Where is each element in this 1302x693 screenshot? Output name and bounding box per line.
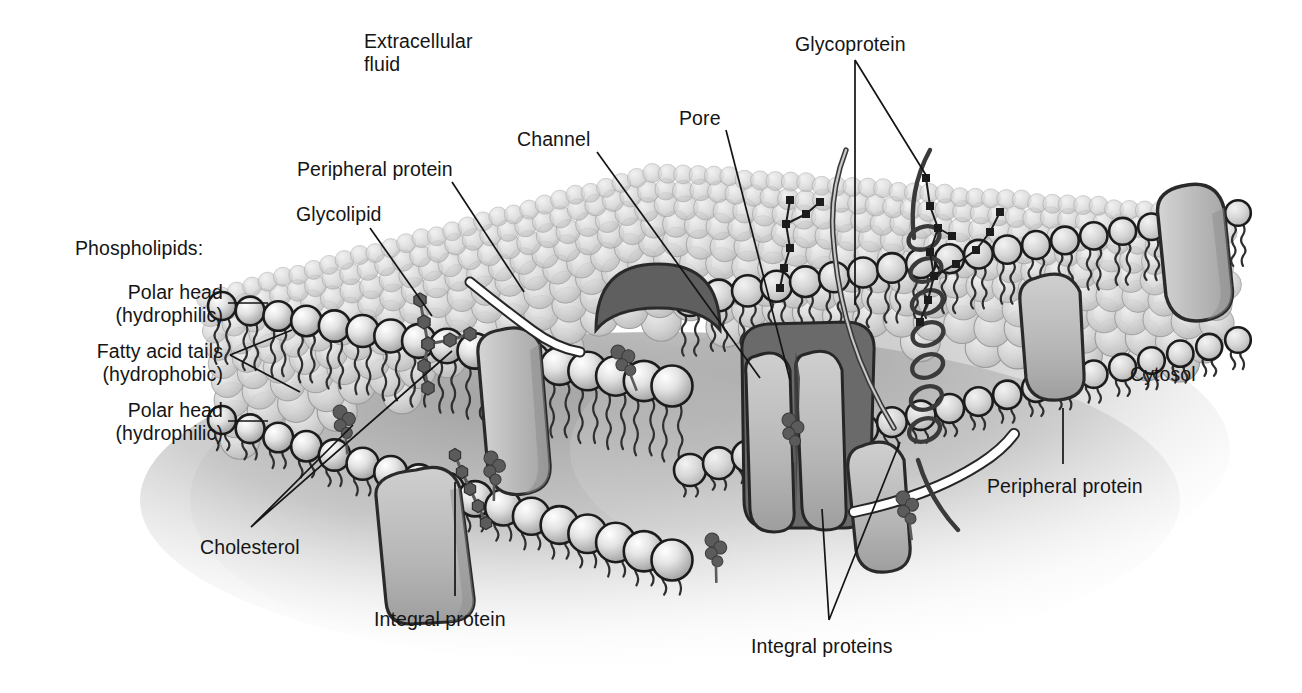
integral-protein-far-right [1020,274,1084,400]
integral-protein-right-edge [1158,184,1233,321]
label-phospholipids-group: Phospholipids: [75,237,203,260]
label-integral-protein: Integral protein [374,608,506,631]
label-cytosol: Cytosol [1130,363,1196,386]
label-polar-head-outer: Polar head (hydrophilic) [68,281,223,327]
integral-protein-lower-left [376,467,474,624]
label-polar-head-inner: Polar head (hydrophilic) [68,399,223,445]
label-glycoprotein: Glycoprotein [795,33,906,56]
label-peripheral-protein-top: Peripheral protein [297,158,453,181]
label-integral-proteins: Integral proteins [751,635,893,658]
membrane-diagram-figure: Extracellular fluid Glycoprotein Channel… [0,0,1302,693]
label-glycolipid: Glycolipid [296,203,382,226]
label-fatty-acid-tails: Fatty acid tails (hydrophobic) [58,340,223,386]
label-cholesterol: Cholesterol [200,536,300,559]
label-pore: Pore [679,107,721,130]
label-channel: Channel [517,128,590,151]
label-extracellular-fluid: Extracellular fluid [364,30,473,76]
label-peripheral-protein-right: Peripheral protein [987,475,1143,498]
